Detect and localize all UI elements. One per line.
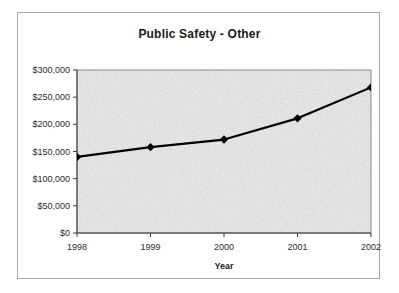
chart-plot: $300,000 $250,000 $200,000 $150,000 $100…	[18, 13, 381, 280]
x-tick-label: 1998	[67, 242, 87, 252]
y-tick-label: $250,000	[32, 92, 70, 102]
y-tick-label: $0	[60, 228, 70, 238]
x-tick-label: 1999	[140, 242, 160, 252]
chart-container: Public Safety - Other	[17, 12, 380, 279]
y-axis	[73, 70, 77, 233]
y-tick-label: $200,000	[32, 119, 70, 129]
x-tick-label: 2002	[361, 242, 381, 252]
x-tick-label: 2001	[287, 242, 307, 252]
x-axis	[77, 233, 371, 237]
y-tick-label: $150,000	[32, 147, 70, 157]
x-tick-label: 2000	[214, 242, 234, 252]
y-tick-label: $300,000	[32, 65, 70, 75]
y-tick-label: $50,000	[37, 201, 70, 211]
x-axis-title: Year	[214, 261, 234, 271]
y-tick-label: $100,000	[32, 174, 70, 184]
